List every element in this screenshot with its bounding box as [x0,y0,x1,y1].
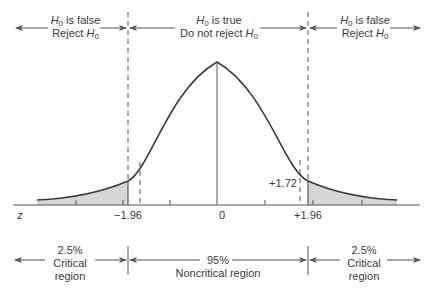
top-right-label: H0 is false Reject H0 [339,14,391,40]
tick-label-neg-1-96: −1.96 [114,209,142,221]
bottom-left-label: 2.5% Critical region [47,244,93,283]
tick-label-zero: 0 [219,209,225,221]
bottom-center-label: 95% Noncritical region [168,254,268,280]
top-left-label: H0 is false Reject H0 [48,14,103,40]
bottom-right-label: 2.5% Critical region [341,244,387,283]
test-statistic-label: +1.72 [269,177,297,189]
axis-variable-label: z [17,209,23,221]
tick-label-pos-1-96: +1.96 [294,209,322,221]
right-critical-region-shade [308,181,397,205]
left-critical-region-shade [37,181,128,205]
top-center-label: H0 is true Do not reject H0 [177,14,261,40]
